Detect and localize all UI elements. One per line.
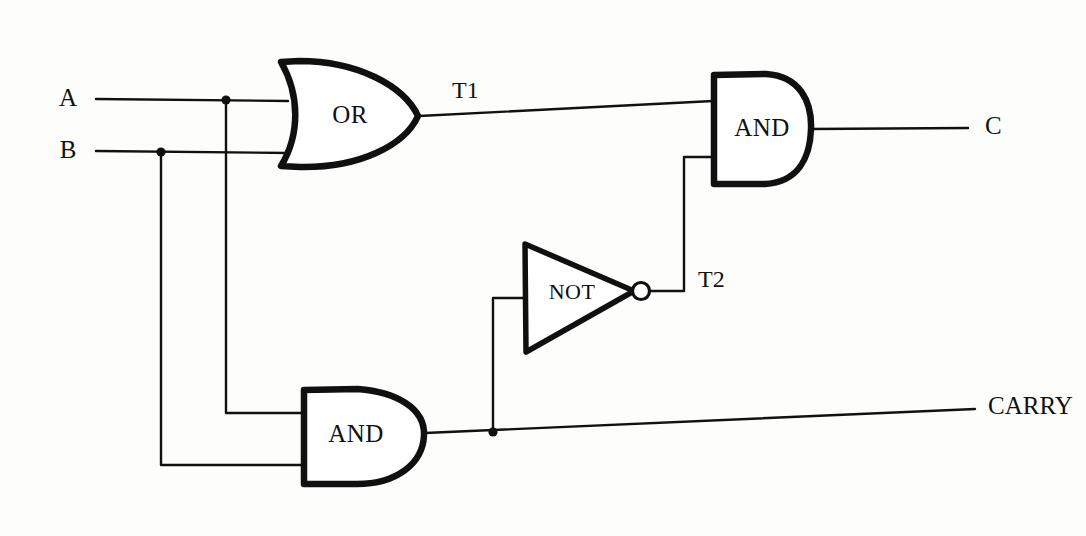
output-label-c: C [985,112,1002,139]
junction-dot-carry [488,427,497,436]
junction-dot-a [221,95,230,104]
wire-t1-or-to-and1 [419,101,713,116]
node-label-t1: T1 [452,77,479,103]
gate-or-label: OR [332,101,368,128]
diagram-canvas: OR AND NOT AND A B T1 T2 C CARRY [0,0,1086,536]
gate-not[interactable]: NOT [525,244,650,352]
input-label-a: A [59,84,77,111]
input-label-b: B [60,136,77,163]
gate-and-top[interactable]: AND [714,74,811,184]
wire-b-branch-to-and2 [161,152,303,465]
wire-carry-output [425,409,975,433]
gate-and-bottom-label: AND [328,420,384,447]
gate-and-top-label: AND [734,114,790,141]
wire-carry-branch-to-not [493,298,525,432]
gate-and-bottom[interactable]: AND [304,389,424,484]
output-label-carry: CARRY [988,392,1073,419]
gate-not-label: NOT [549,279,596,304]
wire-input-b [96,151,290,153]
junction-dot-b [156,147,165,156]
wire-c-output [810,128,968,129]
gate-or[interactable]: OR [281,61,418,167]
gate-not-bubble [633,283,650,300]
node-label-t2: T2 [698,266,725,292]
logic-circuit-diagram: OR AND NOT AND A B T1 T2 C CARRY [0,0,1086,536]
wire-input-a [96,99,288,101]
